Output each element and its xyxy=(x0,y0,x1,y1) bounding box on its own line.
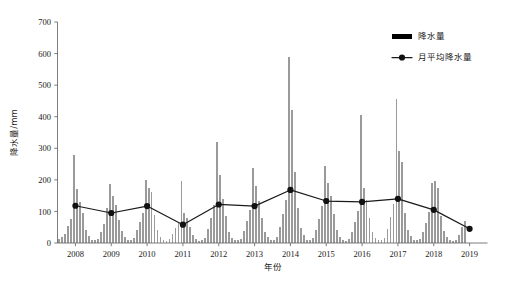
precipitation-bar xyxy=(67,226,69,243)
x-tick-label: 2011 xyxy=(175,249,192,259)
y-tick-label: 200 xyxy=(38,175,51,185)
chart-canvas: 0100200300400500600700 20082009201020112… xyxy=(0,0,508,299)
precipitation-bar xyxy=(339,237,341,243)
precipitation-bar xyxy=(351,232,353,243)
precipitation-bar xyxy=(79,202,81,243)
precipitation-bar xyxy=(58,239,60,243)
precipitation-bar xyxy=(142,213,144,243)
precipitation-bar xyxy=(231,238,233,243)
y-tick-label: 700 xyxy=(38,17,51,27)
x-tick-label: 2012 xyxy=(210,249,227,259)
precipitation-bar xyxy=(375,238,377,243)
precipitation-bar xyxy=(300,228,302,243)
precipitation-bar xyxy=(82,213,84,243)
y-tick-label: 400 xyxy=(38,112,51,122)
precipitation-bar xyxy=(148,188,150,243)
precipitation-bar xyxy=(282,214,284,243)
precipitation-bar xyxy=(121,231,123,243)
precipitation-bar xyxy=(297,208,299,243)
precipitation-bar xyxy=(210,218,212,243)
precipitation-bar xyxy=(410,236,412,243)
precipitation-bar xyxy=(419,239,421,243)
precipitation-bar xyxy=(267,237,269,243)
precipitation-bar xyxy=(369,218,371,243)
precipitation-bar xyxy=(139,222,141,243)
monthly-average-marker xyxy=(323,198,329,204)
precipitation-bar xyxy=(192,235,194,243)
precipitation-bar xyxy=(404,213,406,243)
monthly-average-marker xyxy=(395,196,401,202)
precipitation-bar xyxy=(393,204,395,243)
precipitation-bar xyxy=(455,240,457,243)
precipitation-bar xyxy=(118,220,120,243)
precipitation-bar xyxy=(354,222,356,243)
precipitation-bar xyxy=(249,210,251,243)
precipitation-bar xyxy=(222,199,224,243)
precipitation-bar xyxy=(396,99,398,243)
precipitation-bar xyxy=(333,214,335,243)
legend-marker-monthly-average xyxy=(399,54,405,60)
x-axis-title: 年份 xyxy=(264,262,282,272)
precipitation-bar xyxy=(407,230,409,243)
precipitation-bar xyxy=(115,205,117,243)
y-tick-label: 100 xyxy=(38,207,51,217)
precipitation-bar xyxy=(312,238,314,243)
legend-label-monthly-average: 月平均降水量 xyxy=(418,52,472,62)
y-axis-title: 降水量/mm xyxy=(9,109,19,155)
precipitation-bar xyxy=(431,183,433,243)
precipitation-bar xyxy=(294,172,296,243)
x-tick-label: 2017 xyxy=(389,249,406,259)
precipitation-bar xyxy=(348,239,350,243)
precipitation-bar xyxy=(324,166,326,243)
monthly-average-marker xyxy=(72,203,78,209)
precipitation-bar xyxy=(425,223,427,243)
x-tick-label: 2009 xyxy=(103,249,120,259)
precipitation-bar xyxy=(422,232,424,243)
precipitation-bar xyxy=(195,239,197,243)
x-tick-label: 2014 xyxy=(282,249,300,259)
monthly-average-marker xyxy=(287,187,293,193)
precipitation-bar xyxy=(291,110,293,243)
precipitation-bar xyxy=(85,230,87,243)
precipitation-bar xyxy=(458,235,460,243)
precipitation-bar xyxy=(157,230,159,243)
precipitation-bar xyxy=(183,213,185,243)
precipitation-bar xyxy=(363,188,365,243)
x-tick-label: 2018 xyxy=(425,249,442,259)
precipitation-bar xyxy=(318,219,320,243)
precipitation-bar xyxy=(106,208,108,243)
precipitation-bar xyxy=(327,183,329,243)
precipitation-bar xyxy=(160,237,162,243)
precipitation-bar xyxy=(145,180,147,243)
precipitation-bar xyxy=(384,238,386,243)
precipitation-bar xyxy=(136,230,138,243)
y-tick-label: 600 xyxy=(38,49,51,59)
precipitation-bar xyxy=(357,211,359,243)
precipitation-bar xyxy=(175,228,177,243)
precipitation-bar xyxy=(440,216,442,243)
precipitation-bar xyxy=(91,240,93,243)
precipitation-bar xyxy=(246,221,248,243)
precipitation-bar xyxy=(276,237,278,243)
precipitation-bar xyxy=(258,201,260,243)
precipitation-bar xyxy=(315,230,317,243)
precipitation-bar xyxy=(154,215,156,243)
precipitation-bar xyxy=(306,240,308,243)
precipitation-bar xyxy=(336,230,338,243)
precipitation-bar xyxy=(240,239,242,243)
precipitation-bar xyxy=(255,186,257,243)
precipitation-bar xyxy=(437,188,439,243)
precipitation-bar xyxy=(219,175,221,243)
monthly-average-marker xyxy=(431,207,437,213)
precipitation-bar xyxy=(88,236,90,243)
precipitation-bar xyxy=(390,217,392,243)
x-tick-label: 2013 xyxy=(246,249,263,259)
precipitation-bar xyxy=(112,196,114,243)
y-tick-label: 500 xyxy=(38,80,51,90)
precipitation-bar xyxy=(288,57,290,243)
precipitation-bar xyxy=(204,238,206,243)
x-tick-label: 2019 xyxy=(461,249,478,259)
precipitation-bar xyxy=(464,221,466,243)
precipitation-bar xyxy=(273,240,275,243)
precipitation-bar xyxy=(100,232,102,243)
